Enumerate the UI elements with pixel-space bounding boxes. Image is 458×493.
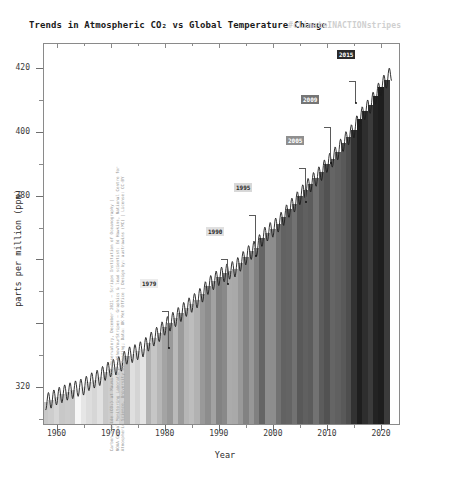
annotation-point-marker [168,347,170,349]
x-tick-minor-top [138,43,139,46]
annotation-year-badge: 2009 [301,95,319,104]
annotation-year-badge: 1995 [234,183,252,192]
x-tick-minor [192,425,193,428]
annotation-leader-line [227,259,228,284]
annotation-point-marker [305,201,307,203]
y-tick-minor [39,100,43,101]
x-tick-label: 2020 [361,429,401,438]
y-tick-minor [39,228,43,229]
annotation-leader-cap [249,215,256,216]
x-tick-minor [138,425,139,428]
page-title: Trends in Atmospheric CO₂ vs Global Temp… [29,20,327,30]
y-tick-minor [39,419,43,420]
annotation-year-badge: 2005 [286,136,304,145]
annotation-leader-line [305,168,306,202]
annotation-leader-line [168,311,169,348]
x-tick-mark-top [57,43,58,48]
annotation-leader-cap [324,127,331,128]
annotation-year-badge: 2015 [337,50,355,59]
x-tick-minor-top [192,43,193,46]
y-tick-mark [36,68,43,69]
y-tick-minor [39,164,43,165]
y-tick-mark [36,259,43,260]
x-tick-minor-top [354,43,355,46]
x-tick-label: 1980 [145,429,185,438]
x-tick-label: 1960 [37,429,77,438]
annotation-point-marker [255,255,257,257]
climate-figure: Trends in Atmospheric CO₂ vs Global Temp… [0,0,458,493]
y-tick-label: 400 [2,127,30,136]
y-tick-mark [36,196,43,197]
y-axis-label: parts per million (ppm) [13,163,23,333]
x-tick-minor-top [300,43,301,46]
x-tick-minor-top [84,43,85,46]
y-tick-mark [36,387,43,388]
x-tick-mark-top [273,43,274,48]
x-tick-label: 1990 [199,429,239,438]
y-tick-minor [39,355,43,356]
x-tick-mark-top [381,43,382,48]
annotation-leader-line [355,81,356,103]
x-tick-mark-top [327,43,328,48]
annotation-leader-cap [299,168,306,169]
hashtag-label: #climateINACTIONstripes [288,21,401,30]
annotation-year-badge: 1990 [206,227,224,236]
source-credit: Carbon dioxide (CO₂) at Mauna Loa Observ… [109,21,126,451]
x-tick-minor [84,425,85,428]
y-tick-mark [36,132,43,133]
annotation-point-marker [227,283,229,285]
x-tick-mark-top [165,43,166,48]
x-tick-minor [354,425,355,428]
annotation-leader-cap [349,81,356,82]
annotation-leader-cap [162,311,169,312]
annotation-leader-line [330,127,331,163]
annotation-point-marker [330,162,332,164]
x-tick-label: 2000 [253,429,293,438]
x-tick-minor [246,425,247,428]
y-tick-minor [39,291,43,292]
x-tick-mark-top [219,43,220,48]
credit-line-3: Atmospheric Science, University of Readi… [120,21,126,451]
annotation-year-badge: 1979 [140,279,158,288]
annotation-leader-cap [221,259,228,260]
x-tick-minor-top [246,43,247,46]
x-tick-minor [300,425,301,428]
annotation-leader-line [255,215,256,256]
y-tick-label: 320 [2,382,30,391]
annotation-point-marker [355,102,357,104]
x-tick-label: 2010 [307,429,347,438]
y-tick-label: 420 [2,63,30,72]
y-tick-mark [36,323,43,324]
x-axis-label: Year [145,450,305,460]
